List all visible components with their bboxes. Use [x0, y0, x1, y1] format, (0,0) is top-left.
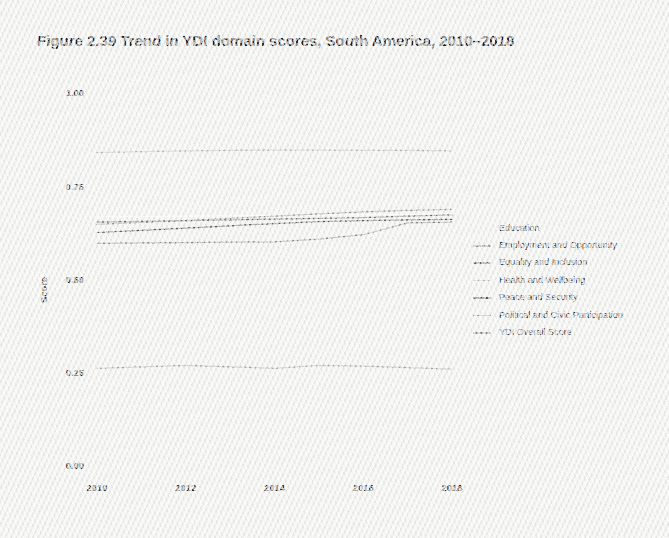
y-tick-label: 0.50: [66, 274, 84, 285]
series-line: [97, 365, 452, 369]
legend-swatch: [472, 254, 494, 271]
x-axis-tick-labels: 20102012201420162018: [87, 482, 463, 493]
x-tick-label: 2016: [353, 482, 374, 493]
x-tick-label: 2010: [87, 482, 108, 493]
legend-swatch: [472, 289, 494, 306]
y-tick-label: 0.00: [66, 460, 84, 471]
x-tick-label: 2012: [175, 482, 196, 493]
legend-label: Equality and Inclusion: [494, 257, 587, 267]
legend-item[interactable]: Equality and Inclusion: [472, 254, 662, 271]
series-lines: [97, 150, 452, 369]
legend-label: Education: [494, 223, 539, 233]
x-tick-label: 2018: [442, 482, 463, 493]
legend-label: YDI Overall Score: [494, 327, 572, 337]
legend-item[interactable]: Health and Wellbeing: [472, 271, 662, 288]
legend-swatch: [472, 271, 494, 288]
y-tick-label: 1.00: [66, 87, 84, 98]
legend-item[interactable]: Education: [472, 219, 662, 236]
legend-item[interactable]: Peace and Security: [472, 289, 662, 306]
legend-swatch: [472, 323, 494, 340]
legend-swatch: [472, 219, 494, 236]
legend-item[interactable]: YDI Overall Score: [472, 323, 662, 340]
legend-swatch: [472, 306, 494, 323]
y-tick-label: 0.25: [66, 367, 84, 378]
y-tick-label: 0.75: [66, 181, 84, 192]
series-line: [97, 150, 452, 153]
legend-item[interactable]: Political and Civic Participation: [472, 306, 662, 323]
x-tick-label: 2014: [264, 482, 286, 493]
legend-label: Employment and Opportunity: [494, 240, 617, 250]
legend-item[interactable]: Employment and Opportunity: [472, 236, 662, 253]
figure-root: Figure 2.39 Trend in YDI domain scores, …: [0, 0, 669, 538]
y-axis-tick-labels: 1.000.750.500.250.00: [66, 87, 84, 471]
series-line: [97, 222, 452, 243]
legend-swatch: [472, 236, 494, 253]
y-axis-title: Score: [38, 277, 49, 303]
legend-label: Political and Civic Participation: [494, 310, 623, 320]
chart-legend: EducationEmployment and OpportunityEqual…: [472, 219, 662, 341]
legend-label: Peace and Security: [494, 292, 578, 302]
legend-label: Health and Wellbeing: [494, 275, 585, 285]
